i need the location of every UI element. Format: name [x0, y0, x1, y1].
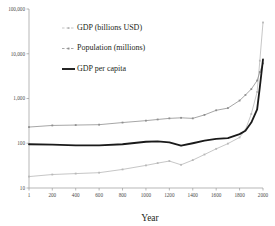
y-tick-label: 100,000: [8, 6, 25, 12]
data-point-marker: [215, 109, 217, 111]
data-point-marker: [157, 119, 159, 121]
x-tick-label: 1400: [188, 192, 199, 198]
chart-legend: GDP (billions USD)Population (millions)G…: [62, 23, 146, 73]
data-point-marker: [215, 148, 217, 150]
x-tick-label: 1000: [141, 192, 152, 198]
y-tick-label: 1,000: [13, 95, 25, 101]
data-point-marker: [122, 169, 124, 171]
legend-marker-icon: [68, 48, 70, 50]
data-point-marker: [204, 154, 206, 156]
data-point-marker: [259, 71, 261, 73]
y-tick-label: 10,000: [11, 51, 26, 57]
y-tick-label: 100: [17, 140, 25, 146]
data-point-marker: [168, 160, 170, 162]
data-point-marker: [51, 174, 53, 176]
data-point-marker: [28, 126, 30, 128]
data-point-marker: [256, 91, 258, 93]
x-tick-label: 800: [119, 192, 127, 198]
series-line-1: [28, 62, 264, 128]
legend-item-2[interactable]: GDP per capita: [62, 64, 126, 73]
x-tick-label: 2000: [258, 192, 269, 198]
legend-label: Population (millions): [77, 43, 146, 52]
data-point-marker: [168, 117, 170, 119]
x-tick-label: 400: [72, 192, 80, 198]
x-axis-title: Year: [141, 213, 159, 223]
y-tick-label: 10: [20, 185, 26, 191]
x-tick-label: 1200: [164, 192, 175, 198]
data-point-marker: [75, 173, 77, 175]
data-point-marker: [239, 100, 241, 102]
data-point-marker: [51, 125, 53, 127]
legend-item-0[interactable]: GDP (billions USD): [62, 23, 142, 32]
chart-container: 101001,00010,000100,000 1200400600800100…: [0, 0, 275, 226]
data-point-marker: [75, 124, 77, 126]
legend-label: GDP (billions USD): [77, 23, 142, 32]
data-series-group: [28, 22, 264, 178]
data-point-marker: [256, 80, 258, 82]
data-point-marker: [180, 164, 182, 166]
legend-item-1[interactable]: Population (millions): [62, 43, 146, 52]
x-axis: 1200400600800100012001400160018002000: [28, 188, 269, 198]
series-line-2: [29, 59, 263, 145]
data-point-marker: [192, 117, 194, 119]
data-point-marker: [180, 117, 182, 119]
data-point-marker: [250, 88, 252, 90]
data-point-marker: [192, 159, 194, 161]
data-point-marker: [122, 122, 124, 124]
data-point-marker: [239, 137, 241, 139]
x-tick-label: 1: [28, 192, 31, 198]
data-point-marker: [28, 176, 30, 178]
series-line-0: [28, 22, 264, 178]
data-point-marker: [145, 164, 147, 166]
data-point-marker: [227, 143, 229, 145]
data-point-marker: [259, 60, 261, 62]
data-point-marker: [157, 162, 159, 164]
data-point-marker: [98, 172, 100, 174]
data-point-marker: [204, 114, 206, 116]
x-tick-label: 1600: [211, 192, 222, 198]
chart-svg: 101001,00010,000100,000 1200400600800100…: [0, 0, 275, 226]
data-point-marker: [245, 94, 247, 96]
data-point-marker: [262, 22, 264, 24]
x-tick-label: 1800: [234, 192, 245, 198]
data-point-marker: [250, 113, 252, 115]
data-point-marker: [98, 124, 100, 126]
x-tick-label: 200: [48, 192, 56, 198]
legend-marker-icon: [68, 27, 70, 29]
legend-label: GDP per capita: [77, 64, 126, 73]
x-tick-label: 600: [95, 192, 103, 198]
data-point-marker: [227, 107, 229, 109]
data-point-marker: [145, 120, 147, 122]
y-axis: 101001,00010,000100,000: [8, 6, 29, 191]
